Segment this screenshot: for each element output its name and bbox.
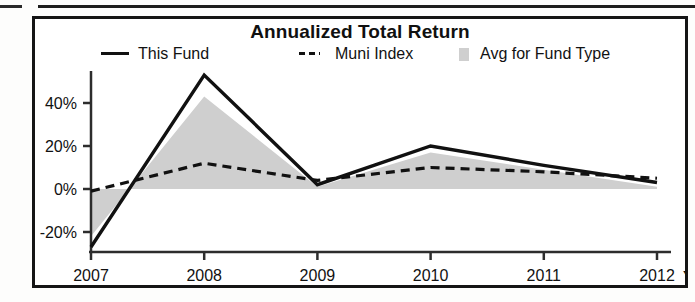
- y-axis-tick-label: 40%: [45, 95, 77, 112]
- plot-area: -20%0%20%40%200720082009201020112012YTD: [35, 19, 685, 285]
- x-axis-tick-label: 2009: [300, 267, 336, 284]
- y-axis-tick-label: -20%: [40, 224, 77, 241]
- x-axis-tick-label: 2010: [413, 267, 449, 284]
- x-axis-tick-label: 2008: [186, 267, 222, 284]
- x-axis-ytd-label: YTD: [683, 267, 685, 284]
- x-axis-tick-label: 2011: [527, 267, 562, 284]
- chart-panel: Annualized Total Return This Fund Muni I…: [32, 16, 688, 288]
- y-axis-tick-label: 20%: [45, 138, 77, 155]
- y-axis-tick-label: 0%: [54, 181, 77, 198]
- top-rule-fragment-left: [0, 5, 22, 8]
- x-axis-tick-label: 2007: [73, 267, 109, 284]
- top-rule: [38, 5, 695, 8]
- chart-screenshot: Annualized Total Return This Fund Muni I…: [0, 0, 695, 302]
- chart-plot-svg: -20%0%20%40%200720082009201020112012YTD: [35, 19, 685, 285]
- x-axis-tick-label: 2012: [639, 267, 675, 284]
- axis-label-layer: -20%0%20%40%200720082009201020112012YTD: [40, 95, 685, 284]
